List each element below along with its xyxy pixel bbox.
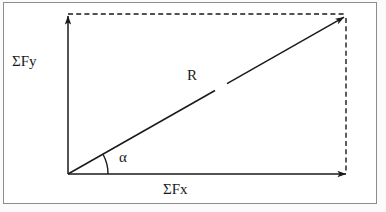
- sum-fx-label: ΣFx: [163, 182, 188, 197]
- sum-fy-label: ΣFy: [12, 54, 37, 69]
- resultant-label: R: [187, 68, 197, 83]
- diagram-page: ΣFy ΣFx R α: [0, 0, 386, 212]
- resultant-vector-segment-lower: [68, 91, 215, 175]
- alpha-angle-arc: [103, 155, 108, 175]
- alpha-angle-label: α: [119, 150, 127, 165]
- vector-diagram: [0, 0, 386, 212]
- resultant-vector-segment-upper: [227, 17, 344, 83]
